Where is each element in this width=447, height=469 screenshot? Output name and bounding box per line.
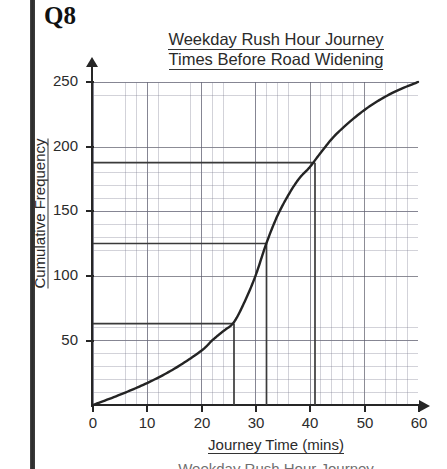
x-tick-label-10: 10 [127, 414, 167, 431]
x-tick-label-60: 60 [399, 414, 439, 431]
x-tick-50 [364, 404, 366, 412]
x-axis-title: Journey Time (mins) [126, 436, 426, 453]
x-tick-label-50: 50 [345, 414, 385, 431]
y-axis-arrow-icon [86, 57, 98, 67]
cumulative-frequency-chart: 250 200 150 100 50 0 10 20 30 40 50 60 C… [0, 0, 447, 469]
y-axis-line [91, 64, 93, 407]
x-tick-label-30: 30 [236, 414, 276, 431]
x-tick-label-0: 0 [73, 414, 113, 431]
x-tick-10 [146, 404, 148, 412]
x-axis-title-text: Journey Time (mins) [208, 436, 344, 454]
y-tick-250 [86, 81, 94, 83]
plot-grid [93, 82, 418, 405]
y-tick-label-50: 50 [34, 331, 78, 348]
y-tick-200 [86, 146, 94, 148]
cut-off-caption: Weekday Rush Hour Journey [126, 460, 426, 469]
x-tick-30 [255, 404, 257, 412]
y-axis-title-text: Cumulative Frequency [31, 138, 49, 288]
y-axis-title: Cumulative Frequency [31, 119, 48, 309]
y-tick-50 [86, 340, 94, 342]
x-tick-20 [201, 404, 203, 412]
x-tick-40 [309, 404, 311, 412]
x-tick-label-20: 20 [182, 414, 222, 431]
x-tick-label-40: 40 [290, 414, 330, 431]
x-tick-0 [92, 404, 94, 412]
y-tick-label-250: 250 [34, 72, 78, 89]
y-tick-150 [86, 210, 94, 212]
y-tick-100 [86, 275, 94, 277]
x-axis-arrow-icon [419, 400, 430, 412]
x-tick-60 [418, 404, 420, 412]
x-axis-line [93, 404, 421, 406]
